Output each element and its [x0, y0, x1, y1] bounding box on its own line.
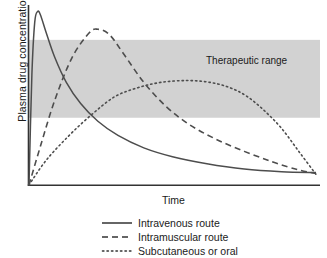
legend-item-subcutaneous-oral: Subcutaneous or oral: [0, 244, 327, 258]
legend-swatch-solid: [101, 217, 133, 229]
legend-item-intramuscular: Intramuscular route: [0, 230, 327, 244]
legend-label-intravenous: Intravenous route: [138, 217, 220, 229]
chart-legend: Intravenous route Intramuscular route Su…: [0, 216, 327, 258]
legend-label-intramuscular: Intramuscular route: [138, 231, 228, 243]
therapeutic-range-band: [28, 40, 320, 118]
therapeutic-range-label: Therapeutic range: [206, 55, 287, 66]
legend-item-intravenous: Intravenous route: [0, 216, 327, 230]
legend-swatch-dotted: [101, 245, 133, 257]
y-axis-label: Plasma drug concentration: [16, 0, 28, 138]
legend-label-subcutaneous-oral: Subcutaneous or oral: [138, 245, 238, 257]
x-axis-label: Time: [27, 194, 320, 206]
pharmacokinetics-figure: Therapeutic range Plasma drug concentrat…: [0, 0, 327, 258]
legend-swatch-dashed: [101, 231, 133, 243]
